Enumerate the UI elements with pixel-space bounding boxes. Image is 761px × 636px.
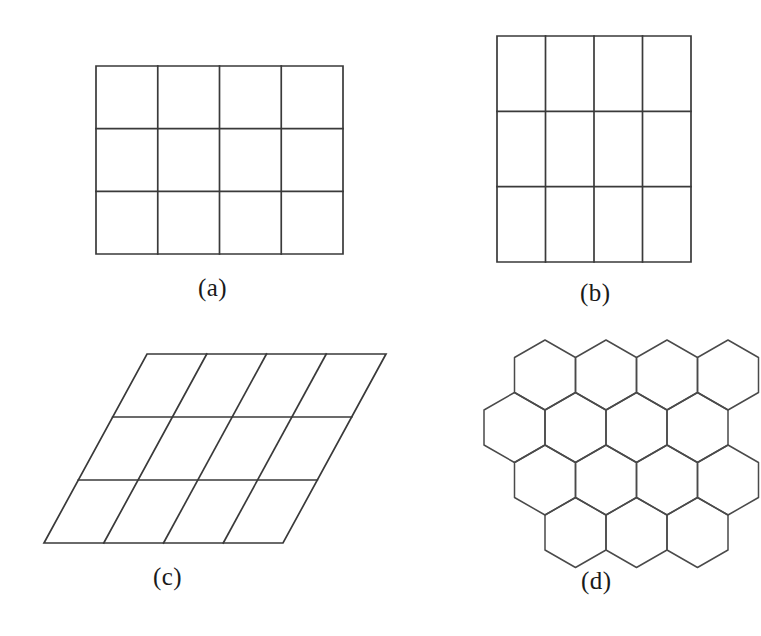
panel-label-c: (c) [153, 563, 182, 591]
panel-label-a: (a) [198, 274, 227, 302]
panel-label-b: (b) [580, 279, 610, 307]
panel-a-rectangular-grid [96, 66, 343, 254]
panel-d-hexagonal-grid [484, 340, 759, 568]
panel-c-oblique-grid [44, 354, 386, 543]
lattice-figure-canvas [0, 0, 761, 636]
panel-b-rectangular-grid [497, 36, 691, 262]
panel-label-d: (d) [581, 567, 611, 595]
